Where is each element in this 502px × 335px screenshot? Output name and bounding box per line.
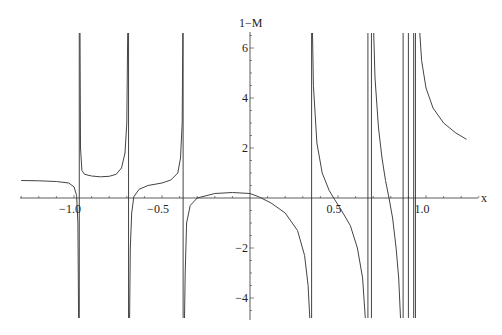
x-tick-label: 0.5 <box>327 203 342 215</box>
x-axis-label: x <box>481 192 487 204</box>
x-tick-label: −1.0 <box>59 203 81 215</box>
x-tick-label: −0.5 <box>147 203 169 215</box>
curve-seg7 <box>420 33 467 139</box>
y-axis-label: 1−M <box>239 17 262 29</box>
x-tick-label: 1.0 <box>415 203 430 215</box>
curve-seg6 <box>374 33 401 318</box>
axes <box>20 32 479 320</box>
curve-seg3 <box>130 33 183 318</box>
y-tick-label: 4 <box>242 92 248 104</box>
curve-series <box>21 33 466 318</box>
curve-seg2 <box>80 33 128 177</box>
y-tick-label: −2 <box>235 242 248 254</box>
curve-seg5 <box>313 33 366 318</box>
y-tick-label: 2 <box>242 142 248 154</box>
y-tick-label: −4 <box>235 292 248 304</box>
chart-plot <box>0 0 502 335</box>
y-tick-label: 6 <box>242 42 248 54</box>
